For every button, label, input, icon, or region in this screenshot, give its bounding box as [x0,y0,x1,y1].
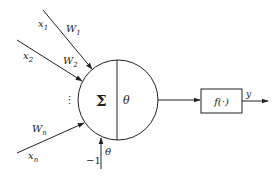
wn-label: Wn [32,123,47,137]
output-label: y [245,89,252,99]
activation-function: f(·) [201,89,242,113]
neuron-diagram: x1 W1 x2 W2 ⋮ Wn xn Σ θ −1 θ f(·) y [0,0,280,177]
sum-symbol: Σ [96,92,107,110]
x2-label: x2 [23,50,34,64]
ellipsis: ⋮ [64,94,75,107]
input-2: x2 W2 [17,40,82,81]
bias-weight: θ [105,146,111,157]
input-n: Wn xn [17,123,84,164]
w2-label: W2 [63,55,78,69]
neuron-node: Σ θ [78,60,158,140]
bias-value: −1 [86,155,101,166]
x1-label: x1 [38,18,48,32]
input-n-arrow [17,123,84,153]
bias-input: −1 θ [86,138,111,169]
xn-label: xn [28,150,39,164]
w1-label: W1 [66,23,81,37]
neuron-circle [78,60,158,140]
threshold-symbol: θ [123,94,130,107]
activation-label: f(·) [213,96,229,107]
output: y [242,89,268,101]
